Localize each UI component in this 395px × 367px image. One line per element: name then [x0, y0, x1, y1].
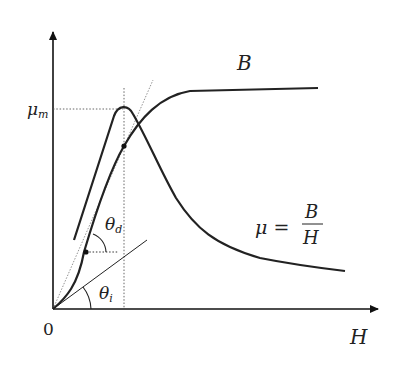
x-axis-label: H [349, 325, 368, 349]
theta-d-label: θd [105, 214, 122, 236]
origin-label: 0 [43, 319, 54, 339]
mu-max-label: μm [27, 99, 49, 121]
chord-tangent-point [121, 143, 126, 148]
mu-formula-lhs: μ = [255, 216, 289, 238]
mu-formula-denominator: H [302, 227, 319, 248]
mu-formula-numerator: B [304, 201, 318, 222]
theta-d-arc [93, 234, 106, 252]
b-curve [53, 88, 318, 309]
differential-point [83, 249, 88, 254]
magnetization-diagram: B μm θd θi 0 H μ = B H [0, 0, 395, 367]
theta-i-label: θi [99, 283, 113, 305]
b-curve-label: B [236, 51, 252, 75]
theta-i-arc [83, 287, 91, 309]
